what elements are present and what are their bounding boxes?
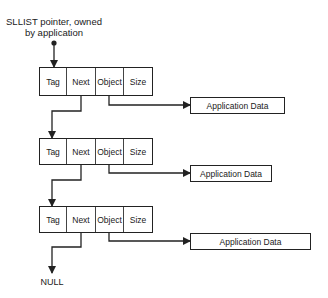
object-arrow-3 — [109, 232, 190, 241]
head-pointer-caption-line2: by application — [5, 27, 103, 38]
head-pointer-caption-line1: SLLIST pointer, owned — [5, 16, 103, 27]
list-node-3: Tag Next Object Size — [39, 206, 153, 233]
field-tag: Tag — [40, 68, 67, 95]
field-size: Size — [124, 207, 152, 232]
field-object: Object — [96, 207, 124, 232]
null-terminator-label: NULL — [36, 277, 68, 287]
application-data-box-3: Application Data — [190, 233, 311, 250]
field-next: Next — [67, 139, 96, 164]
object-arrow-1 — [109, 95, 190, 105]
field-size: Size — [124, 139, 152, 164]
application-data-box-2: Application Data — [190, 165, 272, 182]
field-object: Object — [96, 139, 124, 164]
field-next: Next — [67, 207, 96, 232]
field-next: Next — [67, 68, 96, 95]
next-arrow-1 — [52, 95, 81, 138]
application-data-box-1: Application Data — [190, 97, 285, 114]
field-size: Size — [124, 68, 152, 95]
field-tag: Tag — [40, 207, 67, 232]
list-node-2: Tag Next Object Size — [39, 138, 153, 165]
list-node-1: Tag Next Object Size — [39, 67, 153, 96]
object-arrow-2 — [109, 164, 190, 173]
next-arrow-2 — [52, 164, 81, 206]
next-arrow-3 — [52, 232, 81, 273]
field-tag: Tag — [40, 139, 67, 164]
field-object: Object — [96, 68, 124, 95]
